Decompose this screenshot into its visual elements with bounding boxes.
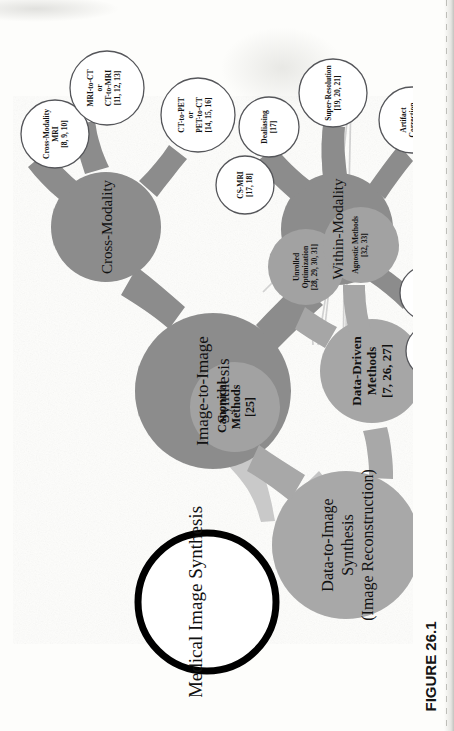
leaf-label-line: MRI (51, 126, 60, 141)
branch-label-line: Synthesis (339, 514, 357, 575)
node-label-line: Data-Driven (349, 335, 364, 405)
leaf-label-line: or (186, 110, 195, 118)
node-label-line: Agnostic Methods (351, 216, 360, 274)
label-mri-to-ct: MRI-to-CT or CT-to-MRI [11, 12, 13] (86, 69, 122, 106)
leaf-label-line: Dealiasing (260, 110, 269, 144)
leaf-label-line: or (95, 83, 104, 91)
leaf-label-line: [17] (269, 120, 278, 133)
diagram-canvas: Medical Image Synthesis Image-to-Image S… (13, 7, 413, 697)
branch-label-line: Image-to-Image (193, 336, 212, 446)
leaf-label-line: CT-to-MRI (104, 69, 113, 105)
node-label-line: [25] (243, 397, 257, 417)
leaf-label-line: Super-Resolution (324, 64, 333, 120)
node-label-line: Cross-Modality (99, 179, 115, 274)
branch-label-line: (Image Reconstruction) (359, 469, 377, 621)
node-label-line: Methods (364, 346, 379, 394)
node-label-line: [28, 29, 30, 31] (310, 243, 319, 289)
node-label-line: Within-Modality (330, 177, 346, 279)
node-label-line: Methods (229, 384, 243, 429)
taxonomy-diagram: Medical Image Synthesis Image-to-Image S… (13, 7, 413, 697)
root-label-line: Medical Image Synthesis (185, 505, 206, 696)
leaf-label-line: [14, 15, 16] (204, 97, 213, 132)
leaf-label-line: [8, 9, 10] (60, 120, 69, 148)
node-label-line: Canonical (215, 380, 229, 433)
figure-caption-wrap: FIGURE 26.1 (410, 597, 450, 727)
root-circle-medical-image-synthesis (138, 533, 276, 671)
leaf-label-line: Artifact (399, 106, 408, 132)
leaf-label-line: [11, 12, 13] (113, 70, 122, 105)
leaf-label-line: CS-MRI (236, 171, 245, 199)
branch-label-line: Data-to-Image (319, 498, 337, 591)
label-within-modality: Within-Modality (330, 177, 346, 279)
label-artifact-correction: Artifact Correction [22] (399, 101, 413, 137)
leaf-denoising (400, 266, 413, 320)
node-label-line: Optimization (301, 244, 310, 287)
leaf-label-line: CT-to-PET (177, 97, 186, 133)
leaf-label-line: Cross-Modality (42, 108, 51, 158)
node-label-line: Unrolled (292, 252, 301, 281)
leaf-label-line: PET-to-CT (195, 97, 204, 133)
leaf-label-line: MRI-to-CT (86, 69, 95, 106)
label-cross-modality: Cross-Modality (99, 179, 115, 274)
node-label-line: [7, 26, 27] (379, 343, 394, 397)
node-label-line: [32, 33] (360, 233, 369, 257)
page-margin-rule (446, 0, 447, 731)
leaf-label-line: Correction (408, 101, 413, 137)
leaf-label-line: [17, 18] (245, 173, 254, 197)
figure-caption: FIGURE 26.1 (422, 588, 439, 712)
book-page: Medical Image Synthesis Image-to-Image S… (0, 0, 454, 731)
label-medical-image-synthesis: Medical Image Synthesis (185, 505, 206, 696)
label-cs-mri: CS-MRI [17, 18] (236, 171, 254, 199)
leaf-label-line: [19, 20, 21] (333, 75, 342, 110)
label-ct-to-pet: CT-to-PET or PET-to-CT [14, 15, 16] (177, 97, 213, 133)
